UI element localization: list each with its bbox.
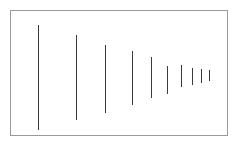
figure-root (0, 0, 239, 148)
plot-frame (10, 10, 228, 136)
